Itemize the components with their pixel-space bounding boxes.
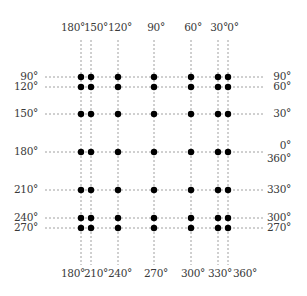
grid-dot <box>215 74 221 80</box>
grid-dot <box>88 84 94 90</box>
left-label-120: 120° <box>14 81 38 92</box>
right-label-60: 60° <box>273 81 291 92</box>
grid-dot <box>215 149 221 155</box>
top-label-90: 90° <box>147 22 165 33</box>
grid-dot <box>225 215 231 221</box>
grid-dot <box>78 84 84 90</box>
grid-dot <box>188 149 194 155</box>
grid-dot <box>88 149 94 155</box>
grid-dot <box>151 84 157 90</box>
grid-dot <box>225 225 231 231</box>
grid-dot <box>78 111 84 117</box>
grid-dot <box>215 84 221 90</box>
top-label-150: 150° <box>84 22 108 33</box>
grid-dot <box>88 215 94 221</box>
right-label-0: 0° <box>280 140 291 151</box>
right-label-330: 330° <box>267 184 291 195</box>
grid-dot <box>188 111 194 117</box>
angle-grid-diagram: 180° 150° 120° 90° 60° 30° 0° 180° 210° … <box>0 0 307 296</box>
grid-dot <box>225 111 231 117</box>
bottom-label-210: 210° <box>84 268 108 279</box>
grid-dot <box>115 225 121 231</box>
grid-dot <box>188 84 194 90</box>
top-label-180: 180° <box>61 22 85 33</box>
grid-dot <box>188 187 194 193</box>
bottom-label-330: 330° <box>208 268 232 279</box>
top-label-60: 60° <box>184 22 202 33</box>
grid-dot <box>115 111 121 117</box>
grid-dot <box>151 111 157 117</box>
grid-dot <box>215 215 221 221</box>
grid-dot <box>151 225 157 231</box>
grid-dot <box>225 187 231 193</box>
bottom-label-300: 300° <box>181 268 205 279</box>
grid-dot <box>151 215 157 221</box>
grid-dot <box>78 187 84 193</box>
left-label-210: 210° <box>14 184 38 195</box>
top-label-120: 120° <box>108 22 132 33</box>
grid-dot <box>115 74 121 80</box>
top-label-0: 0° <box>227 22 238 33</box>
top-label-30: 30° <box>210 22 228 33</box>
bottom-label-240: 240° <box>108 268 132 279</box>
left-label-150: 150° <box>14 108 38 119</box>
right-label-270: 270° <box>267 222 291 233</box>
bottom-label-180: 180° <box>61 268 85 279</box>
grid-dot <box>88 74 94 80</box>
grid-dot <box>151 74 157 80</box>
grid-dot <box>88 111 94 117</box>
right-label-360: 360° <box>267 153 291 164</box>
grid-dot <box>88 225 94 231</box>
grid-dot <box>115 215 121 221</box>
bottom-label-270: 270° <box>144 268 168 279</box>
grid-dot <box>225 149 231 155</box>
left-label-270: 270° <box>14 222 38 233</box>
left-label-180: 180° <box>14 146 38 157</box>
grid-dot <box>215 225 221 231</box>
grid-dot <box>115 187 121 193</box>
right-label-30: 30° <box>273 108 291 119</box>
grid-dot <box>88 187 94 193</box>
grid-dot <box>151 187 157 193</box>
grid-dot <box>188 225 194 231</box>
grid-dot <box>78 74 84 80</box>
bottom-label-360: 360° <box>233 268 257 279</box>
grid-dot <box>215 111 221 117</box>
grid-dot <box>188 74 194 80</box>
grid-dot <box>188 215 194 221</box>
grid-dot <box>151 149 157 155</box>
grid-dot <box>78 215 84 221</box>
grid-dot <box>78 225 84 231</box>
grid-dot <box>78 149 84 155</box>
grid-dot <box>225 84 231 90</box>
grid-dot <box>225 74 231 80</box>
grid-dot <box>215 187 221 193</box>
grid-lines-and-dots <box>0 0 307 296</box>
grid-dot <box>115 84 121 90</box>
grid-dot <box>115 149 121 155</box>
